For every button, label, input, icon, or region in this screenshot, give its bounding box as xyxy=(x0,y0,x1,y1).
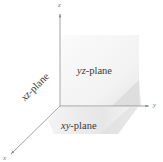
y-axis-label: y xyxy=(153,102,156,109)
z-axis-label: z xyxy=(58,2,61,9)
yz-plane-label: yz-plane xyxy=(77,66,112,77)
diagram-graphics xyxy=(0,0,163,162)
xy-plane-label-prefix: xy xyxy=(61,120,70,131)
xy-plane-label-suffix: -plane xyxy=(70,120,96,131)
coordinate-planes-figure: z y x yz-plane xz-plane xy-plane xyxy=(0,0,163,162)
x-axis-label: x xyxy=(3,155,6,162)
xy-plane-label: xy-plane xyxy=(61,121,97,132)
yz-plane-label-prefix: yz xyxy=(77,65,86,76)
yz-plane-label-suffix: -plane xyxy=(86,65,112,76)
